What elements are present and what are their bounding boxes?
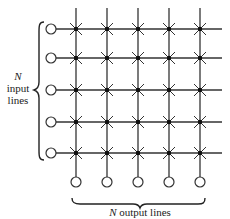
output-terminal-icon [164, 177, 174, 187]
output-terminal-icon [195, 177, 205, 187]
crossbar-diagram: N input lines N output lines [0, 0, 230, 219]
input-terminal-icon [46, 53, 56, 63]
input-terminal-icon [46, 117, 56, 127]
output-terminal-icon [102, 177, 112, 187]
input-terminal-icon [46, 24, 56, 34]
input-terminal-icon [46, 148, 56, 158]
input-brace [34, 22, 44, 160]
input-label-line1: input [7, 82, 30, 94]
output-label: N output lines [108, 206, 171, 218]
output-terminal-icon [133, 177, 143, 187]
crossbar-grid [46, 8, 222, 187]
output-label-text: output lines [119, 206, 171, 218]
output-terminal-icon [71, 177, 81, 187]
input-count-symbol: N [13, 70, 22, 82]
input-terminal-icon [46, 85, 56, 95]
input-label-line2: lines [8, 94, 29, 106]
